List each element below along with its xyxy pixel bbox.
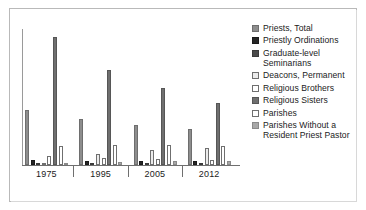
chart-legend: Priests, TotalPriestly OrdinationsGradua… [252,23,364,143]
x-axis-line [22,165,240,166]
bar [156,159,160,165]
legend-item[interactable]: Deacons, Permanent [252,70,364,80]
legend-swatch-religious-sisters [252,97,259,104]
legend-item-label: Religious Brothers [263,83,334,93]
legend-item-label: Parishes [263,108,297,118]
bar [221,146,225,165]
bar [64,163,68,165]
bar [193,161,197,165]
bar [102,158,106,165]
legend-swatch-religious-brothers [252,85,259,92]
bar [188,129,192,165]
x-tick-label-1975: 1975 [24,169,69,179]
legend-swatch-parishes-without-resident-priest-pastor [252,122,259,129]
bar [53,37,57,165]
legend-item-label: Deacons, Permanent [263,70,345,80]
bar [31,160,35,165]
bar [79,119,83,165]
bar [145,163,149,165]
bar [227,161,231,165]
bar [167,145,171,165]
bar [47,156,51,165]
legend-item-label: Religious Sisters [263,95,328,105]
bar [210,160,214,165]
bar [85,161,89,165]
bar [134,125,138,165]
x-axis-tick [128,166,129,177]
bar [150,150,154,165]
x-tick-label-2005: 2005 [133,169,178,179]
x-axis-tick [73,166,74,177]
bar [173,161,177,165]
chart-frame: 1975199520052012 Priests, TotalPriestly … [9,8,357,202]
x-tick-label-2012: 2012 [187,169,232,179]
bar [25,110,29,165]
legend-item[interactable]: Religious Sisters [252,95,364,105]
chart-figure: 1975199520052012 Priests, TotalPriestly … [0,0,366,210]
legend-swatch-parishes [252,110,259,117]
bar-group-2005 [134,29,179,165]
bar-groups-container [23,29,240,165]
plot-area: 1975199520052012 [22,21,240,179]
bar [139,161,143,165]
legend-item[interactable]: Religious Brothers [252,83,364,93]
bar [59,146,63,165]
legend-item[interactable]: Graduate-level Seminarians [252,48,364,68]
legend-swatch-priests-total [252,25,259,32]
legend-item-label: Priestly Ordinations [263,35,339,45]
legend-item[interactable]: Priests, Total [252,23,364,33]
bar-group-1995 [79,29,124,165]
bar-group-1975 [25,29,70,165]
bar [36,163,40,165]
bar [216,103,220,165]
bar [42,163,46,165]
legend-item-label: Priests, Total [263,23,313,33]
legend-item[interactable]: Parishes Without a Resident Priest Pasto… [252,120,364,140]
bar-group-2012 [188,29,233,165]
legend-item[interactable]: Parishes [252,108,364,118]
bar [118,162,122,165]
legend-item-label: Parishes Without a Resident Priest Pasto… [263,120,364,140]
legend-swatch-deacons-permanent [252,72,259,79]
legend-item-label: Graduate-level Seminarians [263,48,364,68]
bar [90,163,94,165]
bar [205,148,209,165]
bar [96,154,100,165]
bar [199,163,203,165]
legend-item[interactable]: Priestly Ordinations [252,35,364,45]
legend-swatch-priestly-ordinations [252,37,259,44]
bar [161,88,165,165]
x-axis-tick [182,166,183,177]
legend-swatch-graduate-level-seminarians [252,50,259,57]
x-tick-label-1995: 1995 [78,169,123,179]
bar [107,70,111,165]
bar [113,145,117,165]
